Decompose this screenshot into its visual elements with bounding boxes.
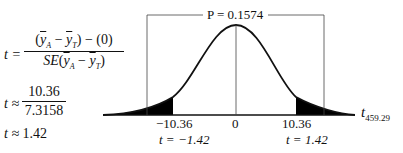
- left-tail-shading: [103, 97, 173, 115]
- density-curve: [103, 25, 355, 115]
- tick-label-negative: −10.36: [156, 116, 193, 132]
- t-label-negative: t = −1.42: [159, 132, 209, 148]
- t-distribution-plot: [0, 0, 403, 153]
- p-value-label: P = 0.1574: [207, 7, 263, 23]
- right-tail-shading: [296, 97, 355, 115]
- degrees-of-freedom: 459.29: [365, 113, 390, 123]
- t-label-positive: t = 1.42: [286, 132, 328, 148]
- p-value-bracket-left: [147, 15, 203, 115]
- tick-label-positive: 10.36: [282, 116, 311, 132]
- axis-label: t459.29: [361, 104, 390, 121]
- tick-label-zero: 0: [232, 116, 239, 132]
